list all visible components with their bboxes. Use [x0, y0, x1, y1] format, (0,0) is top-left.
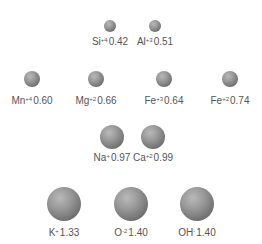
ion-radius-value: 1.40 — [128, 227, 147, 238]
ion-radius-value: 0.42 — [109, 36, 128, 47]
ion-label: O-21.40 — [114, 228, 148, 238]
ion-sphere-icon — [149, 20, 161, 32]
ion-sphere-icon — [156, 71, 172, 87]
ion-charge: + — [106, 153, 110, 159]
ion-label: Al+30.51 — [137, 37, 173, 47]
ion-sphere-icon — [88, 71, 104, 87]
ion-sphere-icon — [100, 125, 124, 149]
ion-label: Fe+20.74 — [211, 96, 250, 106]
ion-sphere-icon — [141, 125, 165, 149]
ion-sphere-icon — [47, 187, 81, 221]
ion-label: Si+40.42 — [92, 37, 128, 47]
ionic-radii-diagram: Si+40.42Al+30.51Mn+40.60Mg+20.66Fe+30.64… — [0, 0, 262, 244]
ion-charge: +3 — [146, 37, 153, 43]
ion-radius-value: 0.74 — [230, 95, 249, 106]
ion-symbol: Fe — [211, 95, 223, 106]
ion-charge: -2 — [122, 228, 127, 234]
ion-symbol: Na — [94, 152, 107, 163]
ion-charge: +3 — [156, 96, 163, 102]
ion-radius-value: 1.40 — [196, 227, 215, 238]
ion-symbol: Fe — [145, 95, 157, 106]
ion-symbol: Mg — [75, 95, 89, 106]
ion-charge: +4 — [25, 96, 32, 102]
ion-label: Fe+30.64 — [145, 96, 184, 106]
ion-charge: +2 — [146, 153, 153, 159]
ion-symbol: O — [114, 227, 122, 238]
ion-sphere-icon — [104, 20, 116, 32]
ion-sphere-icon — [180, 187, 214, 221]
ion-label: K+1.33 — [49, 228, 80, 238]
ion-charge: +4 — [101, 37, 108, 43]
ion-sphere-icon — [222, 71, 238, 87]
ion-radius-value: 1.33 — [60, 227, 79, 238]
ion-charge: +2 — [89, 96, 96, 102]
ion-charge: - — [193, 228, 195, 234]
ion-sphere-icon — [114, 187, 148, 221]
ion-radius-value: 0.99 — [154, 152, 173, 163]
ion-radius-value: 0.51 — [154, 36, 173, 47]
ion-sphere-icon — [24, 71, 40, 87]
ion-symbol: Al — [137, 36, 146, 47]
ion-label: Mg+20.66 — [75, 96, 116, 106]
ion-radius-value: 0.66 — [97, 95, 116, 106]
ion-radius-value: 0.97 — [111, 152, 130, 163]
ion-symbol: Si — [92, 36, 101, 47]
ion-symbol: K — [49, 227, 56, 238]
ion-symbol: Ca — [133, 152, 146, 163]
ion-label: Mn+40.60 — [11, 96, 52, 106]
ion-charge: + — [55, 228, 59, 234]
ion-label: Ca+20.99 — [133, 153, 173, 163]
ion-symbol: Mn — [11, 95, 25, 106]
ion-radius-value: 0.60 — [33, 95, 52, 106]
ion-charge: +2 — [222, 96, 229, 102]
ion-label: Na+0.97 — [94, 153, 131, 163]
ion-symbol: OH — [178, 227, 193, 238]
ion-radius-value: 0.64 — [164, 95, 183, 106]
ion-label: OH-1.40 — [178, 228, 215, 238]
